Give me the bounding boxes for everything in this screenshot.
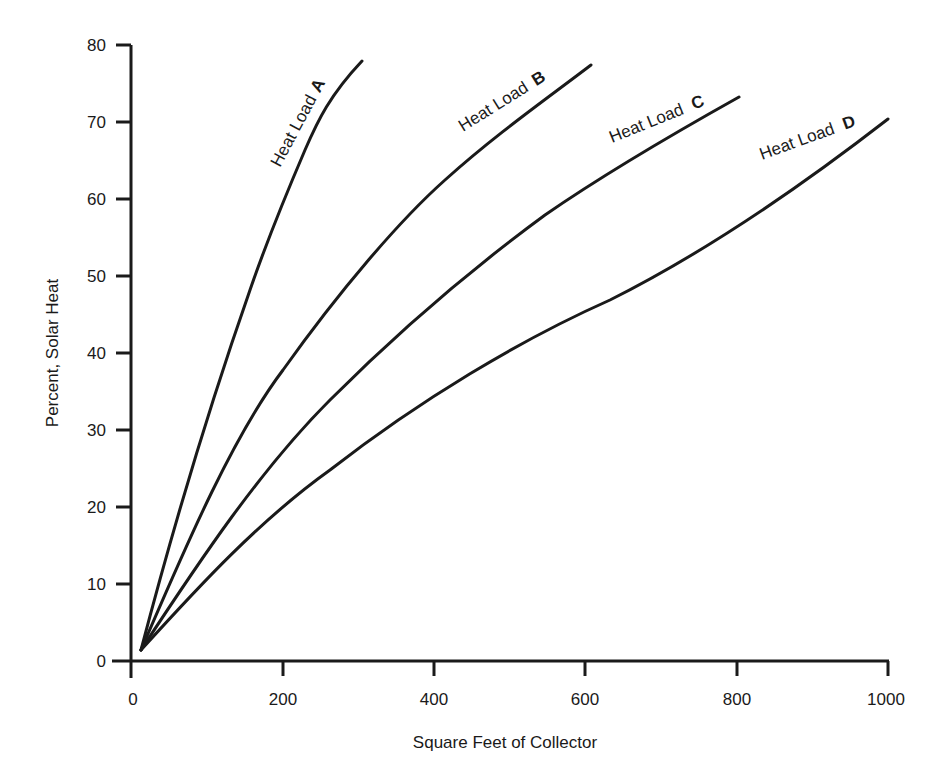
svg-text:Heat LoadD: Heat LoadD	[757, 111, 858, 163]
label-heat-load-c: Heat LoadC	[606, 91, 707, 146]
x-tick-labels: 0 200 400 600 800 1000	[128, 690, 905, 709]
label-heat-load-d: Heat LoadD	[757, 111, 858, 163]
y-tick-10: 10	[87, 575, 106, 594]
y-tick-40: 40	[87, 344, 106, 363]
y-tick-20: 20	[87, 498, 106, 517]
curve-heat-load-c	[141, 97, 739, 650]
curve-heat-load-a	[141, 61, 362, 650]
y-axis-title: Percent, Solar Heat	[43, 279, 62, 428]
label-b-letter: B	[528, 67, 548, 90]
y-tick-50: 50	[87, 267, 106, 286]
label-b-prefix: Heat Load	[455, 78, 532, 136]
label-a-letter: A	[306, 76, 329, 96]
x-axis-title: Square Feet of Collector	[413, 733, 598, 752]
label-d-letter: D	[840, 111, 858, 133]
x-tick-400: 400	[420, 690, 448, 709]
x-tick-0: 0	[128, 690, 137, 709]
label-d-prefix: Heat Load	[757, 119, 837, 164]
curve-heat-load-b	[141, 65, 591, 650]
y-tick-labels: 80 70 60 50 40 30 20 10 0	[87, 36, 106, 671]
solar-heat-chart: 80 70 60 50 40 30 20 10 0 0 200 400 600 …	[0, 0, 937, 780]
y-tick-70: 70	[87, 113, 106, 132]
x-tick-600: 600	[571, 690, 599, 709]
label-c-letter: C	[688, 91, 707, 113]
y-tick-0: 0	[97, 652, 106, 671]
x-tick-1000: 1000	[867, 690, 905, 709]
y-tick-60: 60	[87, 190, 106, 209]
svg-text:Heat LoadB: Heat LoadB	[455, 67, 549, 135]
svg-text:Heat LoadA: Heat LoadA	[267, 76, 329, 170]
label-heat-load-b: Heat LoadB	[455, 67, 549, 135]
x-tick-800: 800	[723, 690, 751, 709]
y-tick-30: 30	[87, 421, 106, 440]
y-axis	[116, 45, 131, 678]
curve-heat-load-d	[141, 119, 888, 650]
label-heat-load-a: Heat LoadA	[267, 76, 329, 170]
svg-text:Heat LoadC: Heat LoadC	[606, 91, 707, 146]
x-axis	[112, 661, 889, 676]
x-tick-200: 200	[269, 690, 297, 709]
y-tick-80: 80	[87, 36, 106, 55]
label-c-prefix: Heat Load	[606, 100, 686, 147]
